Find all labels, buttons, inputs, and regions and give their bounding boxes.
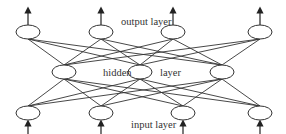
output-neuron <box>161 25 185 39</box>
edge-input-hidden <box>64 79 260 106</box>
neural-network-diagram: output layer hidden layer input layer <box>0 0 286 134</box>
output-neuron <box>16 25 40 39</box>
neurons <box>16 25 272 120</box>
output-neuron <box>89 25 113 39</box>
input-neuron <box>89 106 113 120</box>
hidden-neuron <box>52 65 76 79</box>
input-neuron <box>16 106 40 120</box>
output-neuron <box>248 25 272 39</box>
input-layer-label: input layer <box>131 119 177 130</box>
hidden-layer-label-right: layer <box>160 67 181 78</box>
hidden-neuron <box>128 65 152 79</box>
hidden-neuron <box>210 65 234 79</box>
output-layer-label: output layer <box>121 16 172 27</box>
input-neuron <box>248 106 272 120</box>
hidden-layer-label-left: hidden <box>103 67 132 78</box>
edge-hidden-output <box>173 39 222 65</box>
edge-input-hidden <box>140 79 260 106</box>
input-neuron <box>171 106 195 120</box>
